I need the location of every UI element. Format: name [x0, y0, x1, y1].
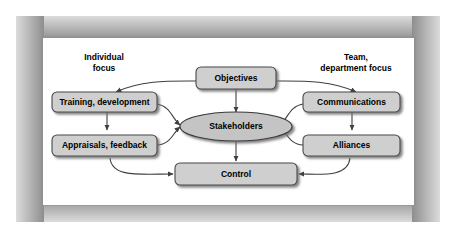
individual-focus-line1: Individual — [84, 52, 124, 62]
objectives-label: Objectives — [215, 73, 258, 83]
team-focus-line1: Team, — [344, 52, 368, 62]
control-label: Control — [221, 169, 251, 179]
node-objectives[interactable]: Objectives — [196, 67, 276, 89]
stakeholders-label: Stakeholders — [209, 121, 263, 131]
node-training-development[interactable]: Training, development — [52, 92, 157, 112]
node-alliances[interactable]: Alliances — [303, 135, 400, 156]
team-focus-line2: department focus — [320, 63, 392, 73]
appraisals-feedback-label: Appraisals, feedback — [62, 140, 147, 150]
node-stakeholders[interactable]: Stakeholders — [180, 112, 292, 141]
node-control[interactable]: Control — [175, 163, 297, 185]
alliances-label: Alliances — [333, 140, 371, 150]
node-communications[interactable]: Communications — [303, 92, 400, 112]
diagram-figure: Individual focus Team, department focus … — [0, 0, 459, 238]
node-appraisals-feedback[interactable]: Appraisals, feedback — [52, 135, 157, 156]
communications-label: Communications — [317, 97, 386, 107]
training-development-label: Training, development — [59, 97, 149, 107]
individual-focus-line2: focus — [93, 63, 116, 73]
